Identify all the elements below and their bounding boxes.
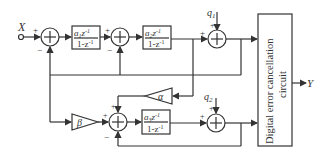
sum2-node [111,28,129,46]
q2-plus-sign: + [209,104,214,113]
sum3-node [208,30,226,48]
integrator-block-2: a2z-1 1-z-1 [143,26,171,49]
sum4-alpha-plus: + [111,102,116,111]
sum5-plus-sign: + [200,112,205,121]
q1-plus-sign: + [210,21,215,30]
integrator-block-1: a1z-1 1-z-1 [72,26,100,49]
mash-sigma-delta-diagram: X + − a1z-1 1-z-1 + − a2z-1 1-z-1 + q1 + [0,0,327,159]
integrator-block-3: a3z-1 1-z-1 [142,110,170,134]
sum5-node [207,114,225,132]
svg-text:Digital error cancellation: Digital error cancellation [264,38,275,144]
input-label: X [17,20,26,34]
alpha-gain: α [145,88,172,104]
sum1-node [41,28,59,46]
digital-error-cancellation-block: Digital error cancellation circuit [258,14,292,146]
sum4-node [109,113,127,131]
sum2-minus-sign: − [107,45,112,55]
sum4-beta-plus: + [103,111,108,120]
sum3-plus-sign: + [200,28,205,38]
q2-label: q2 [204,91,213,104]
sum1-minus-sign: − [37,45,42,55]
sum1-plus-sign: + [33,25,38,35]
input-terminal [19,35,24,40]
beta-gain: β [72,114,98,130]
output-label: Y [307,77,315,89]
sum4-minus-sign: − [104,132,109,142]
sum2-plus-sign: + [105,25,110,35]
q1-label: q1 [207,7,216,20]
svg-text:α: α [158,91,164,102]
svg-text:β: β [76,117,82,128]
svg-text:circuit: circuit [277,71,288,98]
